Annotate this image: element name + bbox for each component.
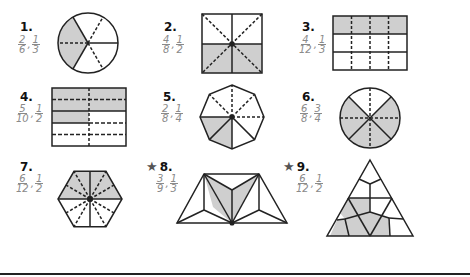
problem-1-number: 1. <box>20 20 33 34</box>
problem-7-number: 7. <box>20 160 33 174</box>
problem-3-number: 3. <box>302 20 315 34</box>
figure-8-trapezoid <box>177 174 287 225</box>
problem-8-answer: 39,13 <box>156 174 178 193</box>
figure-2-square <box>202 14 262 73</box>
problem-7-answer: 612,12 <box>15 174 43 193</box>
problem-6-answer: 68,34 <box>300 104 322 123</box>
problem-5-answer: 28,14 <box>161 104 183 123</box>
problem-4-number: 4. <box>20 90 33 104</box>
problem-2-answer: 48,12 <box>162 35 184 54</box>
problem-9-answer: 612,12 <box>295 174 323 193</box>
figure-5-octagon <box>200 85 264 149</box>
bottom-divider <box>0 273 470 275</box>
figure-1-circle <box>58 13 118 73</box>
problem-5-number: 5. <box>163 90 176 104</box>
figure-7-hexagon <box>58 171 122 226</box>
star-icon: ★ <box>283 159 295 174</box>
problem-9-number: ★9. <box>283 159 310 174</box>
problem-1-answer: 26,13 <box>18 35 40 54</box>
figures-canvas <box>0 0 470 277</box>
figure-6-circle <box>340 88 400 148</box>
figure-3-rectangle <box>333 16 407 70</box>
figure-4-rectangle <box>52 88 126 146</box>
problem-2-number: 2. <box>164 20 177 34</box>
problem-6-number: 6. <box>302 90 315 104</box>
star-icon: ★ <box>146 159 158 174</box>
problem-3-answer: 412,13 <box>298 35 326 54</box>
figure-9-triangle <box>327 160 413 236</box>
problem-8-number: ★8. <box>146 159 173 174</box>
problem-4-answer: 510,12 <box>15 104 43 123</box>
